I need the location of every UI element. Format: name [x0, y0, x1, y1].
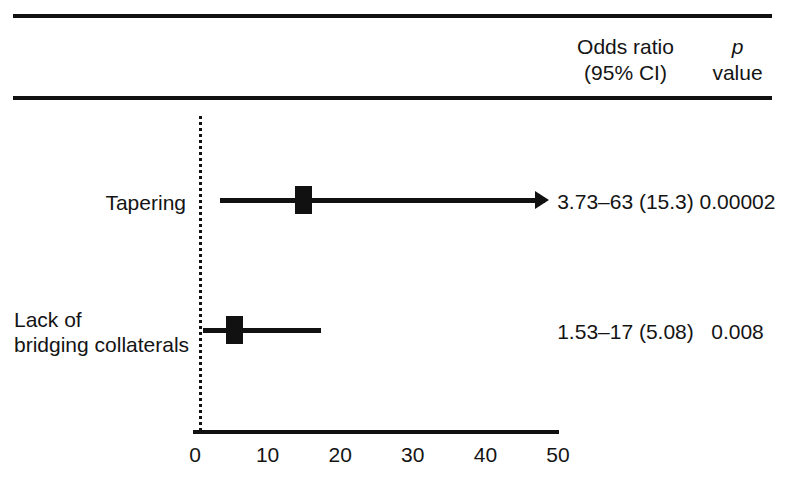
odds-ratio-value-row-0: 3.73‒63 (15.3)	[548, 190, 703, 214]
x-tick-label-10: 10	[238, 442, 298, 468]
column-header-p-word: value	[690, 60, 785, 86]
column-header-p-value: p value	[690, 34, 785, 86]
column-header-odds-ratio-line1: Odds ratio	[548, 34, 703, 60]
column-header-odds-ratio: Odds ratio (95% CI)	[548, 34, 703, 86]
row-label-tapering: Tapering	[0, 190, 186, 215]
x-axis-line	[193, 430, 559, 434]
point-estimate-marker-row-0	[295, 186, 312, 214]
column-header-odds-ratio-line2: (95% CI)	[548, 60, 703, 86]
odds-ratio-value-row-1: 1.53‒17 (5.08)	[548, 320, 703, 344]
point-estimate-marker-row-1	[226, 316, 243, 344]
plot-area: Tapering 3.73‒63 (15.3) 0.00002 Lack of …	[0, 104, 785, 481]
confidence-interval-line-row-0	[220, 198, 545, 203]
x-tick-label-50: 50	[528, 442, 588, 468]
x-axis-tick-labels: 01020304050	[0, 442, 785, 476]
confidence-interval-line-row-1	[203, 328, 321, 333]
row-label-lack-of-bridging-collaterals: Lack of bridging collaterals	[14, 307, 194, 357]
reference-line	[199, 116, 202, 432]
x-tick-label-30: 30	[383, 442, 443, 468]
p-value-row-1: 0.008	[690, 320, 785, 344]
column-header-p-symbol: p	[690, 34, 785, 60]
forest-plot-figure: Odds ratio (95% CI) p value Tapering 3.7…	[0, 0, 785, 481]
p-value-row-0: 0.00002	[690, 190, 785, 214]
x-tick-label-40: 40	[455, 442, 515, 468]
table-rule-top	[13, 14, 772, 18]
x-tick-label-20: 20	[310, 442, 370, 468]
x-tick-label-0: 0	[165, 442, 225, 468]
arrow-right-icon	[535, 191, 549, 209]
table-rule-under-header	[13, 96, 772, 100]
